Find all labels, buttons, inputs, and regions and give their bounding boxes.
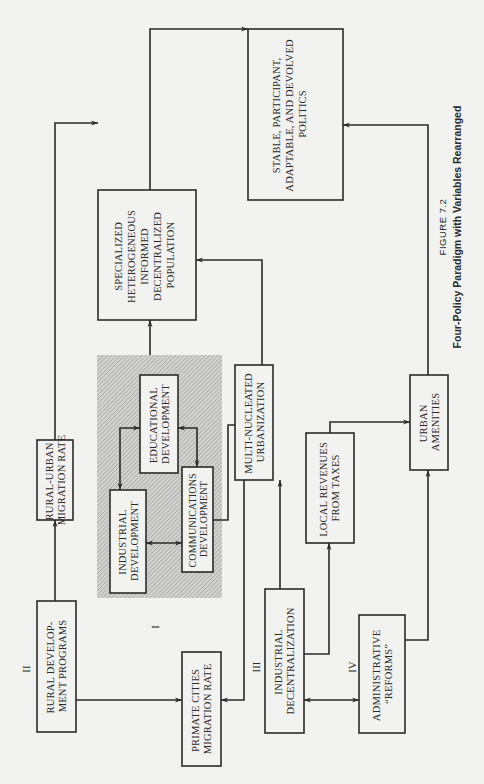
svg-text:COMMUNICATIONS DEVELOPME: COMMUNICATIONS DEVELOPMENT [187,470,209,567]
figure-title: Four-Policy Paradigm with Variables Rear… [451,106,463,349]
arrow-urbanization-to-population [196,260,262,365]
label-population-3: INFORMED [139,228,150,285]
label-rural-urban-2: MIGRATION RATE [56,435,67,526]
label-stable-3: POLITICS [297,90,308,138]
box-administrative-reforms [359,615,405,733]
arrow-reforms-to-amenities [405,470,428,640]
box-rural-urban-migration [37,440,73,520]
arrow-amenities-to-politics [343,125,428,375]
policy-paradigm-diagram: STABLE, PARTICIPANT, ADAPTABLE, AND DEVO… [0,0,484,784]
label-amenities-2: AMENITIES [430,393,441,451]
label-population-1: SPECIALIZED [113,222,124,291]
svg-text:INDUSTRIAL DEVELOPMENT: INDUSTRIAL DEVELOPMENT [117,501,140,581]
label-multi-nucleated-2: URBANIZATION [255,382,266,463]
label-communications-1: COMMUNICATIONS [187,473,198,567]
label-population-4: DECENTRALIZED [152,212,163,301]
figure-number: FIGURE 7.2 [437,199,448,256]
svg-text:PRIMATE CITIES MIGRATION: PRIMATE CITIES MIGRATION RATE [190,664,213,755]
label-decentralization-1: INDUSTRIAL [273,630,284,695]
arrow-rural-urban-to-population [55,123,98,440]
svg-text:RURAL-URBAN MIGRATION RA: RURAL-URBAN MIGRATION RATE [44,435,67,526]
policy-label-iv: IV [346,661,358,673]
label-primate-2: MIGRATION RATE [202,664,213,755]
label-educational-2: DEVELOPMENT [160,384,171,464]
box-multi-nucleated-urbanization [235,365,273,480]
label-reforms-1: ADMINISTRATIVE [371,630,382,721]
svg-text:EDUCATIONAL DEVELOPMENT: EDUCATIONAL DEVELOPMENT [148,384,171,464]
label-primate-1: PRIMATE CITIES [190,669,201,752]
label-decentralization-2: DECENTRALIZATION [285,607,296,714]
label-rural-programs-2: MENT PROGRAMS [57,620,68,713]
box-educational-development [140,375,178,473]
box-urban-amenities [410,375,448,470]
label-industrial-dev-1: INDUSTRIAL [117,510,128,575]
label-stable-2: ADAPTABLE, AND DEVOLVED [284,39,295,192]
label-amenities-1: URBAN [418,404,429,442]
label-revenues-2: FROM TAXES [330,454,341,521]
arrow-urbanization-to-primate [221,480,244,700]
label-population-2: HETEROGENEOUS [126,210,137,303]
label-rural-urban-1: RURAL-URBAN [44,442,55,520]
box-stable-politics [248,29,343,200]
box-industrial-development [110,490,146,593]
arrow-revenues-to-amenities [330,422,410,433]
label-industrial-dev-2: DEVELOPMENT [129,501,140,581]
label-rural-programs-1: RURAL DEVELOP- [45,621,56,713]
label-educational-1: EDUCATIONAL [148,387,159,463]
policy-label-i: I [149,625,161,629]
policy-label-ii: II [20,665,32,673]
arrow-decentralization-to-revenues [304,543,329,654]
label-stable-1: STABLE, PARTICIPANT, [271,58,282,174]
label-reforms-2: “REFORMS” [383,644,394,704]
policy-label-iii: III [250,661,262,672]
svg-text:MULTI-NUCLEATED URBANIZA: MULTI-NUCLEATED URBANIZATION [243,370,266,473]
label-population-5: POPULATION [165,221,176,288]
label-revenues-1: LOCAL REVENUES [318,442,329,537]
label-multi-nucleated-1: MULTI-NUCLEATED [243,373,254,474]
svg-text:RURAL DEVELOP- MENT PROG: RURAL DEVELOP- MENT PROGRAMS [45,619,68,714]
label-communications-2: DEVELOPMENT [198,481,209,557]
arrow-population-to-politics [150,29,248,190]
